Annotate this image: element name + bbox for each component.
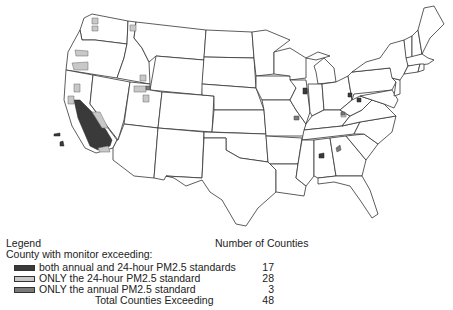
county-annual-only — [341, 112, 345, 115]
county-annual-only — [294, 116, 299, 120]
county-both-standards — [60, 141, 64, 146]
county-24hour-only — [74, 84, 80, 92]
state-colorado — [158, 92, 214, 132]
swatch-24hour-icon — [14, 276, 35, 282]
state-michigan — [306, 52, 336, 84]
county-24hour-only — [134, 86, 146, 92]
state-outlines — [64, 6, 444, 226]
legend-count-header: Number of Counties — [215, 238, 308, 249]
county-24hour-only — [92, 26, 98, 31]
us-county-exceedance-map — [0, 0, 453, 240]
legend-subtitle: County with monitor exceeding: — [6, 249, 153, 260]
county-24hour-only — [75, 50, 88, 56]
county-24hour-only — [140, 75, 146, 81]
legend-total-count: 48 — [244, 295, 274, 306]
county-both-standards — [319, 153, 324, 158]
state-south-dakota — [202, 57, 256, 88]
county-both-standards — [348, 93, 352, 97]
county-annual-only — [146, 86, 150, 90]
county-24hour-only — [72, 62, 88, 70]
county-24hour-only — [92, 18, 98, 24]
state-north-dakota — [204, 30, 254, 58]
state-maine — [418, 6, 444, 54]
state-wisconsin — [274, 48, 306, 80]
legend-total: Total Counties Exceeding 48 — [14, 296, 274, 306]
state-florida — [318, 176, 378, 218]
county-both-standards — [303, 88, 307, 94]
state-wyoming — [150, 56, 204, 95]
legend-total-label: Total Counties Exceeding — [95, 295, 214, 306]
state-washington — [80, 14, 128, 44]
county-24hour-only — [68, 96, 74, 104]
state-kansas — [212, 110, 266, 134]
county-both-standards — [357, 98, 361, 102]
county-24hour-only — [130, 25, 136, 31]
swatch-both-icon — [14, 265, 35, 271]
swatch-annual-icon — [14, 287, 35, 293]
state-new-mexico — [154, 128, 204, 180]
state-arkansas — [266, 136, 302, 164]
county-24hour-only — [143, 95, 149, 102]
county-both-standards — [54, 133, 60, 136]
